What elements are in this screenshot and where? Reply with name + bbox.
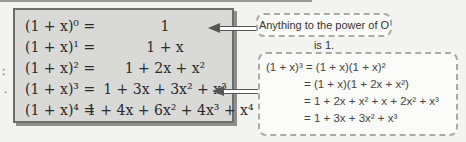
expansion-rhs: 1 + 4x + 6x² + 4x³ + x⁴ xyxy=(87,100,237,120)
expansion-rhs: 1 + x xyxy=(95,37,235,57)
arrow-left-icon xyxy=(212,86,224,96)
binomial-expansions-box: (1 + x)⁰ = 1 (1 + x)¹ = 1 + x (1 + x)² =… xyxy=(13,8,234,123)
arrow-to-row-3 xyxy=(212,89,260,94)
working-line-2: = 1 + 2x + x² + x + 2x² + x³ xyxy=(304,94,439,109)
edge-mark-dot: . xyxy=(4,82,7,97)
working-line-1: = (1 + x)(1 + 2x + x²) xyxy=(304,77,409,92)
arrow-shaft xyxy=(218,26,258,31)
arrow-left-icon xyxy=(208,23,220,33)
cube-working-note: (1 + x)³ = (1 + x)(1 + x)² = (1 + x)(1 +… xyxy=(258,52,458,136)
expansion-lhs: (1 + x)⁴ = xyxy=(25,100,95,120)
top-rule xyxy=(0,0,312,2)
expansion-lhs: (1 + x)² = xyxy=(25,58,95,78)
arrow-to-row-0 xyxy=(208,26,258,31)
working-line-3: = 1 + 3x + 3x² + x³ xyxy=(304,111,397,126)
expansion-lhs: (1 + x)³ = xyxy=(25,79,95,99)
expansion-lhs: (1 + x)¹ = xyxy=(25,37,95,57)
expansion-lhs: (1 + x)⁰ = xyxy=(25,16,95,36)
expansion-rhs: 1 + 2x + x² xyxy=(95,58,235,78)
power-zero-note: Anything to the power of O is 1. xyxy=(256,13,392,37)
arrow-shaft xyxy=(222,89,260,94)
edge-mark-colon: : xyxy=(2,64,5,79)
working-line-0: (1 + x)³ = (1 + x)(1 + x)² xyxy=(266,60,386,75)
